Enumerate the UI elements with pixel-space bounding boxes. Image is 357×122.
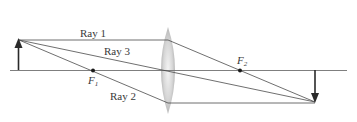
- ray-diagram: Ray 1 Ray 3 Ray 2 F1 F2: [0, 0, 357, 122]
- image-arrow-icon: [311, 70, 319, 103]
- ray-2-label: Ray 2: [110, 90, 136, 102]
- object-arrow-icon: [15, 38, 23, 70]
- focal-point-f1-dot: [91, 69, 95, 73]
- focal-point-f1-label: F1: [87, 74, 98, 88]
- focal-point-f2-dot: [238, 69, 242, 73]
- ray-1-label: Ray 1: [80, 27, 106, 39]
- ray-3-label: Ray 3: [104, 45, 130, 57]
- focal-point-f2-label: F2: [236, 54, 248, 68]
